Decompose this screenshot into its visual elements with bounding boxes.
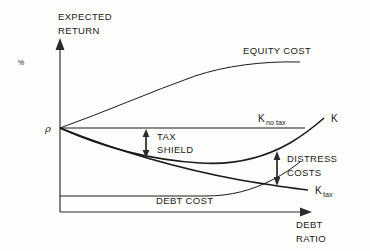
debt-cost-label: DEBT COST	[156, 195, 213, 206]
x-axis-arrowhead	[300, 208, 312, 217]
distress-arrow-up	[274, 151, 281, 160]
y-axis-title-line2: RETURN	[58, 25, 100, 36]
distress-label-line1: DISTRESS	[287, 153, 337, 164]
k-no-tax-label: K	[258, 113, 265, 124]
x-axis-title-line2: RATIO	[296, 233, 326, 244]
y-axis	[56, 38, 65, 212]
x-axis	[60, 208, 312, 217]
tax-shield-annotation: TAX SHIELD	[143, 129, 194, 158]
k-tax-sublabel: tax	[323, 190, 333, 199]
equity-cost-label: EQUITY COST	[243, 45, 311, 56]
distress-label-line2: COSTS	[287, 167, 321, 178]
y-axis-unit-label: %	[18, 59, 24, 66]
capital-structure-diagram: EXPECTED RETURN % DEBT RATIO ρ EQUITY CO…	[0, 0, 370, 251]
x-axis-title-line1: DEBT	[296, 219, 323, 230]
k-tax-label: K	[315, 185, 322, 196]
y-axis-arrowhead	[56, 38, 65, 50]
tax-shield-label-line1: TAX	[157, 131, 176, 142]
k-curve-label: K	[331, 113, 338, 124]
distress-costs-annotation: DISTRESS COSTS	[274, 151, 338, 186]
rho-symbol: ρ	[44, 123, 51, 134]
y-axis-title-line1: EXPECTED	[58, 11, 112, 22]
k-no-tax-sublabel: no tax	[266, 118, 286, 127]
distress-arrow-down	[274, 177, 281, 186]
tax-shield-arrow-up	[143, 129, 150, 137]
tax-shield-label-line2: SHIELD	[157, 144, 193, 155]
chart-canvas: EXPECTED RETURN % DEBT RATIO ρ EQUITY CO…	[0, 0, 370, 251]
